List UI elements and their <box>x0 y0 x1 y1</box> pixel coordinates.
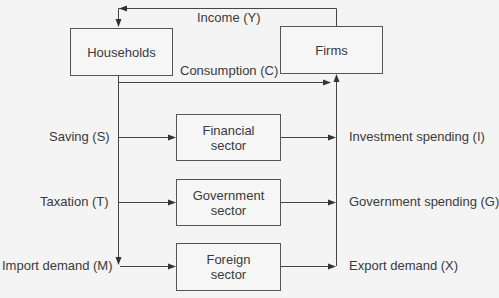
foreign-sector-box: Foreign sector <box>176 243 281 291</box>
financial-label-line1: Financial <box>202 123 254 138</box>
taxation-label: Taxation (T) <box>40 194 109 209</box>
financial-sector-box: Financial sector <box>176 114 281 161</box>
households-box: Households <box>70 28 173 76</box>
firms-label: Firms <box>315 43 348 58</box>
government-spending-label: Government spending (G) <box>349 194 499 209</box>
income-label: Income (Y) <box>197 10 261 25</box>
saving-label: Saving (S) <box>49 129 110 144</box>
foreign-label-line2: sector <box>211 267 246 282</box>
government-label-line2: sector <box>211 203 246 218</box>
government-label-line1: Government <box>193 188 265 203</box>
financial-label-line2: sector <box>211 138 246 153</box>
government-sector-box: Government sector <box>176 179 281 226</box>
export-label: Export demand (X) <box>349 258 458 273</box>
households-label: Households <box>87 45 156 60</box>
consumption-label: Consumption (C) <box>180 63 278 78</box>
firms-box: Firms <box>280 26 383 74</box>
foreign-label-line1: Foreign <box>206 252 250 267</box>
investment-label: Investment spending (I) <box>349 129 485 144</box>
import-label: Import demand (M) <box>2 258 113 273</box>
